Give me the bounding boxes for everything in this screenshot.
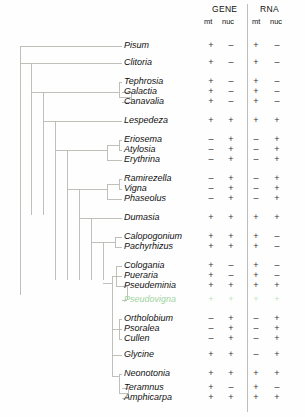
matrix-cell: – — [270, 271, 284, 280]
matrix-cell: + — [204, 271, 218, 280]
taxon-label: Glycine — [124, 350, 154, 359]
matrix-cell: + — [270, 145, 284, 154]
matrix-cell: – — [224, 383, 238, 392]
matrix-cell: – — [270, 232, 284, 241]
matrix-cell: + — [224, 350, 238, 359]
matrix-cell: + — [224, 194, 238, 203]
matrix-cell: – — [249, 145, 263, 154]
header-group-rna: RNA — [260, 4, 279, 14]
matrix-cell: + — [270, 295, 284, 304]
matrix-cell: – — [270, 242, 284, 251]
matrix-cell: – — [224, 97, 238, 106]
matrix-cell: – — [204, 334, 218, 343]
matrix-cell: + — [249, 261, 263, 270]
matrix-cell: – — [204, 174, 218, 183]
gene-rna-divider — [247, 4, 248, 412]
taxon-label: Ortholobium — [124, 314, 173, 323]
cladogram-figure: GENE RNA mt nuc mt nuc — [0, 0, 305, 417]
taxon-label: Dumasia — [124, 213, 160, 222]
matrix-cell: + — [249, 58, 263, 67]
matrix-cell: + — [204, 350, 218, 359]
matrix-cell: – — [249, 194, 263, 203]
matrix-cell: – — [249, 155, 263, 164]
matrix-cell: + — [204, 281, 218, 290]
matrix-cell: + — [249, 116, 263, 125]
matrix-cell: + — [224, 281, 238, 290]
matrix-cell: + — [270, 324, 284, 333]
matrix-cell: + — [224, 334, 238, 343]
matrix-cell: – — [270, 97, 284, 106]
taxon-label: Teramnus — [124, 383, 164, 392]
matrix-cell: – — [270, 58, 284, 67]
phylogenetic-tree — [0, 0, 198, 417]
matrix-cell: + — [224, 393, 238, 402]
matrix-cell: + — [270, 184, 284, 193]
matrix-cell: + — [204, 261, 218, 270]
matrix-cell: + — [249, 281, 263, 290]
matrix-cell: + — [204, 58, 218, 67]
matrix-cell: + — [270, 155, 284, 164]
taxon-label: Cullen — [124, 334, 150, 343]
matrix-cell: + — [224, 232, 238, 241]
matrix-cell: + — [224, 145, 238, 154]
matrix-cell: – — [224, 41, 238, 50]
matrix-cell: + — [270, 393, 284, 402]
matrix-cell: + — [249, 295, 263, 304]
taxon-label: Phaseolus — [124, 194, 166, 203]
header-group-gene: GENE — [212, 4, 237, 14]
taxon-label: Pachyrhizus — [124, 242, 173, 251]
matrix-cell: + — [270, 174, 284, 183]
matrix-cell: + — [224, 135, 238, 144]
matrix-cell: + — [204, 232, 218, 241]
matrix-cell: + — [224, 174, 238, 183]
matrix-cell: + — [204, 97, 218, 106]
taxon-label: Canavalia — [124, 97, 164, 106]
matrix-cell: + — [249, 271, 263, 280]
matrix-cell: – — [249, 314, 263, 323]
matrix-cell: + — [249, 369, 263, 378]
taxon-label: Pseudovigna — [124, 295, 176, 304]
matrix-cell: – — [224, 261, 238, 270]
matrix-header: GENE RNA mt nuc mt nuc — [198, 4, 305, 36]
matrix-cell: + — [204, 369, 218, 378]
header-sub-rna-mt: mt — [252, 17, 260, 26]
tree-branches — [0, 0, 198, 417]
header-sub-rna-nuc: nuc — [270, 17, 282, 26]
matrix-cell: – — [204, 194, 218, 203]
taxon-label: Vigna — [124, 184, 147, 193]
matrix-cell: – — [270, 383, 284, 392]
matrix-cell: – — [204, 324, 218, 333]
matrix-cell: + — [249, 213, 263, 222]
matrix-cell: + — [204, 116, 218, 125]
matrix-cell: – — [249, 324, 263, 333]
taxon-label: Pueraria — [124, 271, 158, 280]
taxon-label: Eriosema — [124, 135, 162, 144]
matrix-cell: – — [249, 174, 263, 183]
matrix-cell: + — [270, 334, 284, 343]
matrix-cell: – — [270, 261, 284, 270]
matrix-cell: + — [270, 350, 284, 359]
taxon-label: Neonotonia — [124, 369, 170, 378]
matrix-cell: – — [224, 77, 238, 86]
matrix-cell: + — [224, 242, 238, 251]
matrix-cell: + — [204, 383, 218, 392]
matrix-cell: + — [249, 77, 263, 86]
matrix-cell: + — [224, 184, 238, 193]
matrix-cell: – — [270, 87, 284, 96]
taxon-label: Galactia — [124, 87, 157, 96]
matrix-cell: – — [249, 184, 263, 193]
matrix-cell: – — [204, 145, 218, 154]
matrix-cell: + — [204, 41, 218, 50]
header-sub-gene-mt: mt — [204, 17, 212, 26]
matrix-cell: – — [270, 41, 284, 50]
matrix-cell: + — [224, 369, 238, 378]
matrix-cell: + — [204, 87, 218, 96]
taxon-label: Amphicarpa — [124, 393, 172, 402]
matrix-cell: + — [270, 281, 284, 290]
matrix-cell: + — [249, 232, 263, 241]
matrix-cell: + — [204, 242, 218, 251]
matrix-cell: + — [204, 295, 218, 304]
matrix-cell: + — [249, 242, 263, 251]
matrix-cell: + — [270, 116, 284, 125]
taxon-label: Pisum — [124, 41, 149, 50]
